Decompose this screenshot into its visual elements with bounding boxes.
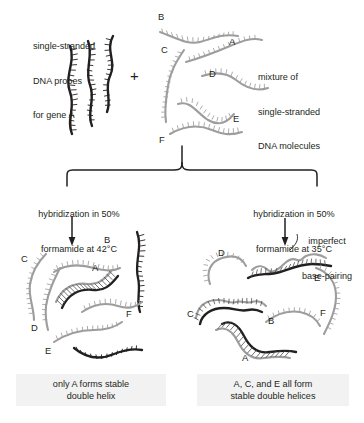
- left-strand-E-dark: [74, 345, 142, 359]
- right-label-F: F: [320, 307, 326, 318]
- mixture-label-E: E: [233, 113, 239, 124]
- left-caption-line-1: only A forms stable: [53, 378, 129, 390]
- left-caption-line-2: double helix: [53, 390, 129, 402]
- mixture-caption-line-2: single-stranded: [258, 107, 320, 119]
- probe-strand-3: [103, 36, 114, 112]
- left-label-F: F: [126, 308, 132, 319]
- probe-caption-line-3: for gene A: [33, 110, 95, 122]
- mixture-strand-C: [161, 50, 184, 122]
- probe-caption: single-stranded DNA probes for gene A: [33, 18, 95, 145]
- mixture-strand-F: [170, 121, 242, 134]
- mixture-strand-B: [160, 29, 238, 43]
- left-label-C: C: [21, 253, 28, 264]
- mixture-label-F: F: [159, 134, 165, 145]
- right-duplex-A: [216, 321, 296, 358]
- plus-sign: +: [130, 67, 139, 84]
- right-label-B: B: [268, 315, 274, 326]
- left-condition-line-2: formamide at 42°C: [14, 244, 144, 256]
- right-label-A: A: [242, 352, 248, 363]
- right-label-C: C: [187, 308, 194, 319]
- mixture-label-A: A: [229, 36, 235, 47]
- left-label-D: D: [31, 322, 38, 333]
- probe-caption-line-2: DNA probes: [33, 76, 95, 88]
- mixture-caption-line-1: mixture of: [258, 72, 320, 84]
- imperfect-line-1: imperfect: [292, 236, 362, 248]
- left-condition-line-1: hybridization in 50%: [14, 209, 144, 221]
- right-result-caption: A, C, and E all form stable double helic…: [197, 374, 349, 406]
- mixture-caption-line-3: DNA molecules: [258, 141, 320, 153]
- imperfect-base-pairing-label: imperfect base-pairing: [292, 213, 362, 305]
- mixture-strand-group: [160, 29, 268, 135]
- mixture-strand-E: [178, 97, 234, 123]
- mixture-caption: mixture of single-stranded DNA molecules: [258, 49, 320, 176]
- mixture-label-C: C: [161, 44, 168, 55]
- left-label-A: A: [92, 262, 98, 273]
- mixture-strand-A: [186, 35, 262, 62]
- dna-hybridization-figure: single-stranded DNA probes for gene A + …: [0, 0, 364, 423]
- left-condition-label: hybridization in 50% formamide at 42°C: [14, 186, 144, 278]
- mixture-label-B: B: [158, 11, 164, 22]
- right-duplex-C: [194, 298, 266, 324]
- left-strand-F: [82, 299, 142, 312]
- right-caption-line-2: stable double helices: [231, 390, 316, 402]
- mixture-label-D: D: [209, 68, 216, 79]
- right-caption-line-1: A, C, and E all form: [231, 378, 316, 390]
- left-label-E: E: [45, 345, 51, 356]
- right-label-E: E: [314, 272, 320, 283]
- imperfect-line-2: base-pairing: [292, 271, 362, 283]
- left-strand-D: [54, 322, 122, 342]
- left-result-caption: only A forms stable double helix: [16, 374, 166, 406]
- right-label-D: D: [218, 247, 225, 258]
- probe-caption-line-1: single-stranded: [33, 41, 95, 53]
- left-label-B: B: [104, 234, 110, 245]
